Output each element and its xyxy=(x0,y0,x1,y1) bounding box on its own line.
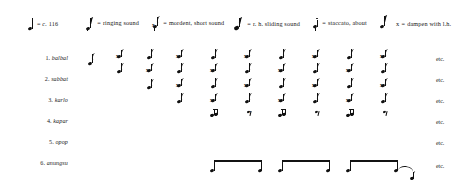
eighth-rest-shape xyxy=(383,110,390,119)
row-label-6: 6. anungsu xyxy=(16,160,68,166)
etc-label-row-1: etc. xyxy=(436,56,444,62)
dampen-x-icon: x xyxy=(146,68,149,73)
legend-item-about-note xyxy=(380,15,389,31)
dampen-x-icon: x xyxy=(278,98,281,103)
note-cluster: x x xyxy=(278,49,296,145)
eighth-note-mordent: x xyxy=(312,49,324,62)
row-name: balbal xyxy=(52,55,68,61)
row-label-4: 4. kapar xyxy=(16,118,68,124)
quarter-note-icon xyxy=(28,18,35,31)
legend-row: = c. 116 = ringing sound x = xyxy=(0,0,466,40)
beam-stem-left xyxy=(282,160,283,171)
dampen-x-icon: x xyxy=(244,83,247,88)
dampen-x-icon: x xyxy=(210,98,213,103)
eighth-note-mordent: x xyxy=(244,49,256,62)
legend-tempo-value: 116 xyxy=(49,20,59,27)
eighth-note xyxy=(177,93,187,106)
beam-stem-left xyxy=(214,160,215,171)
eighth-note xyxy=(313,93,323,106)
etc-label-row-6: etc. xyxy=(436,163,444,169)
music-notation-figure: = c. 116 = ringing sound x = xyxy=(0,0,466,188)
eighth-note-mordent: x xyxy=(146,63,158,76)
dampen-x-icon: x xyxy=(210,68,213,73)
row-number: 5. xyxy=(49,139,54,145)
row-name: anungsu xyxy=(47,160,68,166)
dampen-x-icon: x xyxy=(176,83,179,88)
eighth-note xyxy=(147,79,157,92)
dampen-x-icon: x xyxy=(380,54,383,59)
eighth-note-mordent: x xyxy=(244,78,256,91)
beamed-note-pair xyxy=(212,160,268,178)
eighth-note xyxy=(147,49,157,62)
eighth-note xyxy=(211,49,221,62)
legend-tempo-prefix: c. xyxy=(42,20,47,27)
row-number: 4. xyxy=(47,118,52,124)
row-label-3: 3. karlo xyxy=(16,97,68,103)
grace-note-group xyxy=(278,108,292,120)
dampen-x-icon: x xyxy=(244,54,247,59)
row-number: 6. xyxy=(40,160,45,166)
dampen-x-icon: x xyxy=(278,68,281,73)
row-label-1: 1. balbal xyxy=(16,55,68,61)
eighth-note xyxy=(347,49,357,62)
eighth-note xyxy=(347,78,357,91)
dampen-x-icon: x xyxy=(116,54,119,59)
legend-item-dampen: x = dampen with l.h. xyxy=(396,21,451,27)
eighth-note-mordent: x xyxy=(380,49,392,62)
legend-equals: = xyxy=(402,21,406,27)
eighth-note-staccato-icon xyxy=(313,16,320,31)
dampen-x-icon: x xyxy=(312,54,315,59)
row-number: 3. xyxy=(48,97,53,103)
legend-sliding-text: r. h. sliding sound xyxy=(253,21,300,27)
note-cluster: x x xyxy=(312,49,330,145)
eighth-note-mordent: x xyxy=(312,78,324,91)
row-number: 2. xyxy=(45,76,50,82)
eighth-note-mordent: x xyxy=(210,93,222,106)
eighth-note-flagged-icon xyxy=(380,15,389,31)
row-name: kapar xyxy=(53,118,68,124)
eighth-note-ringing-icon xyxy=(86,16,95,31)
eighth-note-mordent: x xyxy=(210,63,222,76)
dampen-x-icon: x xyxy=(380,83,383,88)
row-number: 1. xyxy=(45,55,50,61)
legend-ringing-text: ringing sound xyxy=(103,20,139,26)
dampen-x-icon: x xyxy=(346,98,349,103)
grace-note-group xyxy=(210,108,224,120)
legend-tempo-text: = c. 116 xyxy=(37,21,58,27)
eighth-note xyxy=(211,78,221,91)
row-name: opop xyxy=(55,139,68,145)
note-cluster: x x xyxy=(346,49,364,145)
eighth-note xyxy=(245,93,255,106)
eighth-note xyxy=(313,63,323,76)
beam-bar xyxy=(350,160,398,162)
legend-equals: = xyxy=(97,20,101,26)
legend-equals: = xyxy=(322,20,326,26)
etc-label-row-5: etc. xyxy=(436,140,444,146)
note-cluster xyxy=(88,50,98,64)
eighth-note xyxy=(279,49,289,62)
legend-item-mordent: x = mordent, short sound xyxy=(152,16,224,31)
eighth-note-mordent: x xyxy=(116,49,128,62)
eighth-note-mordent: x xyxy=(346,63,358,76)
beam-bar xyxy=(282,160,330,162)
etc-label-row-2: etc. xyxy=(436,77,444,83)
eighth-note xyxy=(279,78,289,91)
row-label-5: 5. opop xyxy=(16,139,68,145)
note-cluster: x xyxy=(116,49,130,79)
beam-stem-left xyxy=(350,160,351,171)
legend-mordent-text: mordent, short sound xyxy=(169,20,224,26)
eighth-note-mordent: x xyxy=(380,78,392,91)
legend-item-sliding: = r. h. sliding sound xyxy=(234,17,300,31)
beamed-note-pair xyxy=(280,160,336,178)
note-cluster: x x xyxy=(380,49,398,145)
eighth-note-mordent: x xyxy=(278,63,290,76)
eighth-rest-shape xyxy=(247,110,254,119)
row-name: sabbat xyxy=(51,76,68,82)
eighth-note xyxy=(117,63,127,76)
staccato-dot-icon xyxy=(316,18,317,19)
note-head-right xyxy=(257,169,262,174)
note-cluster: x xyxy=(146,49,162,101)
eighth-note-mordent: x xyxy=(176,78,188,91)
dampen-x-icon: x xyxy=(312,83,315,88)
legend-staccato-text: staccato, about xyxy=(328,20,367,26)
